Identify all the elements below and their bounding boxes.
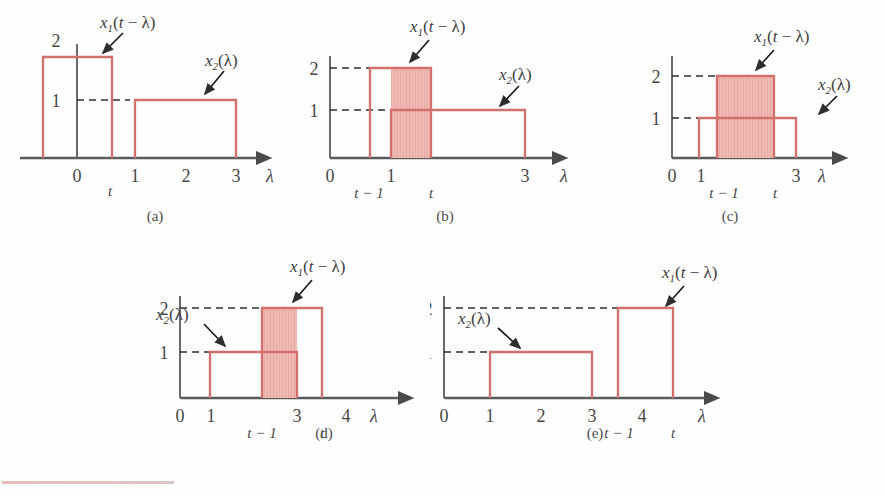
panel-b: 2 1 0 1 3 t − 1 t λ x1(t − λ) x2(λ): [292, 8, 592, 208]
x-tick-3: 3: [521, 166, 530, 186]
bottom-rule-decoration: [2, 481, 174, 484]
x-tick-t: t: [108, 183, 113, 199]
x1-label: x1(t − λ): [289, 257, 345, 278]
x2-pulse: [490, 352, 592, 398]
overlap-shaded-region: [391, 68, 431, 158]
y-tick-2: 2: [430, 299, 433, 319]
x2-pointer-arrow: [498, 328, 520, 348]
panel-a: 2 1 0 1 2 3 t λ x1(t − λ) x2(λ): [0, 8, 300, 208]
x1-label: x1(t − λ): [99, 13, 155, 34]
y-tick-1: 1: [430, 343, 433, 363]
x-tick-4: 4: [342, 406, 351, 426]
x-tick-0: 0: [176, 406, 185, 426]
x2-label: x2(λ): [155, 305, 189, 326]
x-tick-2: 2: [537, 406, 546, 426]
x1-label: x1(t − λ): [661, 263, 717, 284]
x-tick-3: 3: [293, 406, 302, 426]
y-tick-1: 1: [310, 101, 319, 121]
x-tick-1: 1: [131, 166, 140, 186]
x-tick-0: 0: [668, 166, 677, 186]
panel-b-plot: 2 1 0 1 3 t − 1 t λ x1(t − λ) x2(λ): [292, 8, 592, 208]
x-tick-1: 1: [387, 166, 396, 186]
x2-label: x2(λ): [204, 51, 238, 72]
x1-pointer-arrow: [410, 40, 429, 62]
x1-pointer-arrow: [756, 50, 774, 70]
x-tick-3: 3: [792, 166, 801, 186]
lambda-axis-label: λ: [369, 406, 378, 426]
panel-a-plot: 2 1 0 1 2 3 t λ x1(t − λ) x2(λ): [0, 8, 300, 208]
x1-label: x1(t − λ): [409, 17, 465, 38]
y-tick-1: 1: [160, 343, 169, 363]
x-tick-1: 1: [486, 406, 495, 426]
x-tick-1: 1: [697, 166, 706, 186]
panel-b-caption: (b): [415, 208, 475, 225]
lambda-axis-label: λ: [559, 166, 568, 186]
x1-label: x1(t − λ): [753, 27, 809, 48]
x2-label: x2(λ): [498, 65, 532, 86]
panel-c: 2 1 0 1 3 t − 1 t λ x1(t − λ) x2(λ): [584, 8, 884, 208]
x1-pointer-arrow: [103, 33, 123, 53]
x-tick-0: 0: [73, 166, 82, 186]
x-tick-4: 4: [638, 406, 647, 426]
panel-e-caption: (e): [565, 425, 625, 442]
x-tick-t: t: [429, 185, 434, 201]
panel-c-plot: 2 1 0 1 3 t − 1 t λ x1(t − λ) x2(λ): [584, 8, 884, 208]
x-tick-0: 0: [326, 166, 335, 186]
x-tick-t: t: [671, 425, 676, 441]
x-tick-3: 3: [232, 166, 241, 186]
x2-pointer-arrow: [500, 86, 519, 106]
panel-c-caption: (c): [700, 208, 760, 225]
lambda-axis-label: λ: [817, 166, 826, 186]
lambda-axis-label: λ: [697, 406, 706, 426]
x2-pulse: [135, 100, 236, 158]
lambda-axis-label: λ: [265, 166, 274, 186]
panel-d-caption: (d): [294, 425, 354, 442]
x2-pointer-arrow: [205, 71, 224, 94]
x1-pointer-arrow: [666, 286, 684, 306]
y-tick-1: 1: [52, 91, 61, 111]
y-tick-2: 2: [310, 59, 319, 79]
y-tick-2: 2: [52, 31, 61, 51]
x-tick-t-minus-1: t − 1: [709, 185, 738, 201]
x2-pointer-arrow: [819, 96, 837, 114]
panel-a-caption: (a): [125, 208, 185, 225]
x-tick-2: 2: [182, 166, 191, 186]
x2-pointer-arrow: [204, 324, 225, 346]
x-tick-3: 3: [588, 406, 597, 426]
x-tick-t-minus-1: t − 1: [247, 425, 276, 441]
figure-root: 2 1 0 1 2 3 t λ x1(t − λ) x2(λ) (a): [0, 0, 884, 497]
x-tick-1: 1: [207, 406, 216, 426]
x-tick-t-minus-1: t − 1: [354, 185, 383, 201]
x-tick-0: 0: [440, 406, 449, 426]
x2-label: x2(λ): [817, 75, 851, 96]
x1-pulse: [618, 308, 673, 398]
y-tick-2: 2: [652, 67, 661, 87]
x-tick-t: t: [773, 185, 778, 201]
x1-pointer-arrow: [293, 280, 312, 302]
y-tick-1: 1: [652, 109, 661, 129]
x2-label: x2(λ): [457, 309, 491, 330]
